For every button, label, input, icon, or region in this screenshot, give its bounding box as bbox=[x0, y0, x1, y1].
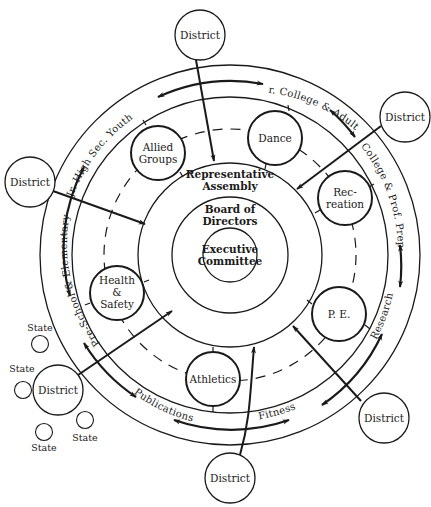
division-health-safety[interactable]: Health & Safety bbox=[90, 266, 144, 320]
arrow-district-bottom bbox=[240, 347, 254, 455]
arrow-district-top bbox=[196, 60, 214, 161]
svg-text:District: District bbox=[364, 412, 405, 424]
rep-assembly-line2: Assembly bbox=[201, 180, 258, 192]
division-recreation[interactable]: Rec- reation bbox=[318, 171, 372, 225]
state-3[interactable]: State bbox=[72, 412, 98, 444]
svg-text:reation: reation bbox=[326, 198, 364, 210]
svg-text:&: & bbox=[112, 286, 121, 298]
svg-text:State: State bbox=[9, 363, 35, 374]
svg-text:District: District bbox=[180, 29, 221, 41]
district-lower-right[interactable]: District bbox=[359, 393, 409, 443]
arrow-research-fitness bbox=[322, 334, 382, 405]
board-line1: Board of bbox=[205, 203, 257, 215]
svg-text:P. E.: P. E. bbox=[328, 308, 351, 320]
svg-text:Allied: Allied bbox=[142, 141, 174, 153]
district-bottom[interactable]: District bbox=[205, 453, 255, 503]
district-left[interactable]: District bbox=[5, 157, 55, 207]
svg-text:District: District bbox=[385, 111, 426, 123]
division-athletics[interactable]: Athletics bbox=[186, 352, 240, 406]
district-lower-left[interactable]: District bbox=[33, 365, 83, 415]
svg-text:District: District bbox=[210, 472, 251, 484]
state-2[interactable]: State bbox=[9, 363, 35, 399]
svg-text:District: District bbox=[10, 176, 51, 188]
division-pe[interactable]: P. E. bbox=[312, 287, 366, 341]
svg-text:State: State bbox=[72, 432, 98, 443]
district-upper-right[interactable]: District bbox=[380, 92, 430, 142]
svg-text:Athletics: Athletics bbox=[189, 373, 237, 385]
arrow-jrhigh-jrcollege bbox=[158, 81, 263, 97]
board-line2: Directors bbox=[203, 215, 258, 227]
rep-assembly-line1: Representative bbox=[186, 168, 275, 180]
arrow-preschool-publications bbox=[84, 343, 136, 397]
svg-text:District: District bbox=[38, 384, 79, 396]
svg-text:Health: Health bbox=[99, 274, 135, 286]
svg-text:Safety: Safety bbox=[100, 298, 134, 310]
svg-text:State: State bbox=[27, 322, 53, 333]
district-top[interactable]: District bbox=[175, 10, 225, 60]
division-allied-groups[interactable]: Allied Groups bbox=[131, 126, 185, 180]
core-labels: Representative Assembly Board of Directo… bbox=[186, 168, 275, 267]
state-4[interactable]: State bbox=[31, 424, 57, 454]
svg-text:Rec-: Rec- bbox=[333, 186, 357, 198]
exec-line1: Executive bbox=[202, 243, 259, 255]
svg-text:Dance: Dance bbox=[258, 132, 292, 144]
ring-label-publications: Publications bbox=[132, 386, 195, 424]
ring-label-fitness: Fitness bbox=[257, 400, 297, 421]
svg-text:State: State bbox=[31, 442, 57, 453]
svg-text:Groups: Groups bbox=[139, 153, 178, 165]
division-dance[interactable]: Dance bbox=[248, 111, 302, 165]
organization-diagram: Representative Assembly Board of Directo… bbox=[0, 0, 431, 507]
state-1[interactable]: State bbox=[27, 322, 53, 353]
arrow-college-research bbox=[400, 245, 401, 287]
exec-line2: Committee bbox=[198, 255, 263, 267]
